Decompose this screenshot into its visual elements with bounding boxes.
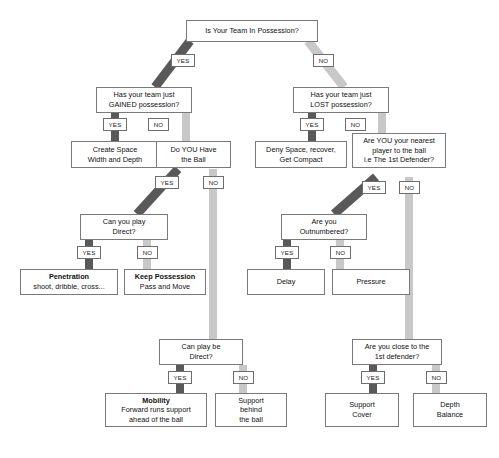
branch-label-yes-haveball: YES xyxy=(155,176,179,189)
node-text-line: Keep Possession xyxy=(135,272,195,282)
node-can-play-be-direct[interactable]: Can play beDirect? xyxy=(159,339,243,365)
connector-layer xyxy=(0,0,499,458)
node-create-space[interactable]: Create SpaceWidth and Depth xyxy=(71,141,159,168)
branch-label-yes-outnumbered: YES xyxy=(275,246,299,259)
node-keep-possession[interactable]: Keep PossessionPass and Move xyxy=(124,269,206,295)
node-text-line: Pressure xyxy=(356,277,385,287)
node-text-line: Delay xyxy=(277,277,296,287)
branch-label-yes-direct1: YES xyxy=(77,246,101,259)
node-are-you-nearest-player[interactable]: Are YOU your nearestplayer to the balli.… xyxy=(352,133,446,168)
node-text-line: ahead of the ball xyxy=(129,415,183,425)
node-mobility[interactable]: MobilityForward runs supportahead of the… xyxy=(105,393,207,427)
node-text-line: 1st defender? xyxy=(375,352,420,362)
branch-label-no-haveball: NO xyxy=(203,176,224,189)
branch-label-no-close1st: NO xyxy=(426,371,447,384)
node-text-line: Pass and Move xyxy=(140,282,190,292)
node-text-line: Can you play xyxy=(103,217,146,227)
branch-label-yes-direct2: YES xyxy=(168,371,192,384)
node-gained-possession[interactable]: Has your team justGAINED possession? xyxy=(96,87,192,113)
node-text-line: Has your team just xyxy=(114,90,175,100)
node-text-line: Support xyxy=(349,400,375,410)
node-text-line: Can play be xyxy=(182,342,221,352)
node-deny-space[interactable]: Deny Space, recover,Get Compact xyxy=(255,141,347,168)
node-pressure[interactable]: Pressure xyxy=(332,269,410,295)
branch-label-yes-lost: YES xyxy=(300,118,324,131)
branch-label-yes-gained: YES xyxy=(103,118,127,131)
branch-label-no-root: NO xyxy=(313,54,334,67)
node-text-line: Get Compact xyxy=(280,155,323,165)
node-text-line: Width and Depth xyxy=(88,155,142,165)
branch-label-yes-close1st: YES xyxy=(361,371,385,384)
node-text-line: the Ball xyxy=(181,155,205,165)
node-text-line: i.e The 1st Defender? xyxy=(364,155,434,165)
node-text-line: Is Your Team In Possession? xyxy=(205,26,299,36)
node-delay[interactable]: Delay xyxy=(247,269,325,295)
node-lost-possession[interactable]: Has your team justLOST possession? xyxy=(293,87,389,113)
node-are-you-close-to-1st-defender[interactable]: Are you close to the1st defender? xyxy=(352,339,442,365)
node-text-line: Direct? xyxy=(189,352,212,362)
flowchart-canvas: Is Your Team In Possession? Has your tea… xyxy=(0,0,499,458)
node-text-line: Depth xyxy=(440,400,459,410)
branch-label-no-direct2: NO xyxy=(233,371,254,384)
node-do-you-have-the-ball[interactable]: Do YOU Havethe Ball xyxy=(156,141,231,168)
branch-label-no-lost: NO xyxy=(345,118,366,131)
node-text-line: Mobility xyxy=(142,396,170,406)
node-text-line: the ball xyxy=(239,415,263,425)
node-can-you-play-direct[interactable]: Can you playDirect? xyxy=(80,214,168,240)
node-text-line: player to the ball xyxy=(372,146,426,156)
branch-label-no-nearest: NO xyxy=(399,181,420,194)
node-text-line: Direct? xyxy=(112,227,135,237)
node-text-line: Are you close to the xyxy=(365,342,430,352)
node-text-line: Forward runs support xyxy=(121,405,190,415)
branch-label-yes-nearest: YES xyxy=(362,181,386,194)
node-text-line: shoot, dribble, cross... xyxy=(33,282,104,292)
node-support-cover[interactable]: SupportCover xyxy=(325,393,399,427)
node-depth-balance[interactable]: DepthBalance xyxy=(413,393,487,427)
node-are-you-outnumbered[interactable]: Are youOutnumbered? xyxy=(281,214,367,240)
node-text-line: Are you xyxy=(311,217,336,227)
node-text-line: Do YOU Have xyxy=(170,145,216,155)
node-text-line: Create Space xyxy=(93,145,138,155)
node-text-line: Deny Space, recover, xyxy=(266,145,336,155)
node-text-line: Cover xyxy=(352,410,371,420)
node-text-line: Penetration xyxy=(49,272,89,282)
node-text-line: behind xyxy=(240,405,262,415)
node-text-line: Balance xyxy=(437,410,463,420)
node-text-line: Outnumbered? xyxy=(300,227,349,237)
branch-label-no-gained: NO xyxy=(148,118,169,131)
node-text-line: LOST possession? xyxy=(310,100,372,110)
node-penetration[interactable]: Penetrationshoot, dribble, cross... xyxy=(20,269,118,295)
branch-label-no-direct1: NO xyxy=(137,246,158,259)
node-text-line: GAINED possession? xyxy=(109,100,180,110)
branch-label-yes-root: YES xyxy=(171,54,195,67)
branch-label-no-outnumbered: NO xyxy=(330,246,351,259)
node-is-your-team-in-possession[interactable]: Is Your Team In Possession? xyxy=(186,20,318,42)
node-text-line: Are YOU your nearest xyxy=(363,136,435,146)
node-text-line: Support xyxy=(238,396,264,406)
node-text-line: Has your team just xyxy=(311,90,372,100)
node-support-behind-the-ball[interactable]: Supportbehindthe ball xyxy=(215,393,287,427)
